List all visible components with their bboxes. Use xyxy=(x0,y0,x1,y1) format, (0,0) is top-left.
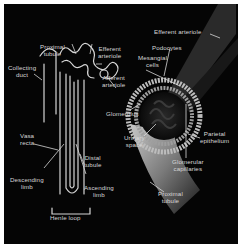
label-line: Afferent xyxy=(102,74,125,81)
label-line: arteriole xyxy=(98,52,121,59)
label-line: capillaries xyxy=(172,165,204,172)
label-ascending-limb: Ascending limb xyxy=(84,184,114,198)
label-urinary-space: Urinary space xyxy=(124,134,145,148)
label-proximal-tubule-bottom: Proximal tubule xyxy=(158,190,183,204)
label-line: limb xyxy=(10,183,44,190)
label-podocytes: Podocytes xyxy=(152,44,182,51)
label-line: Parietal xyxy=(200,130,229,137)
label-henle-loop: Henle loop xyxy=(50,214,81,221)
label-distal-tubule: Distal tubule xyxy=(84,154,101,168)
label-line: limb xyxy=(84,191,114,198)
label-mesangial-cells: Mesangial cells xyxy=(138,54,167,68)
label-line: Glomerular xyxy=(172,158,204,165)
label-afferent-arteriole: Afferent arteriole xyxy=(102,74,125,88)
nephron-illustration xyxy=(4,4,238,244)
label-line: Vasa xyxy=(20,132,34,139)
label-line: Ascending xyxy=(84,184,114,191)
label-line: Urinary xyxy=(124,134,145,141)
label-glomerulus: Glomerulus xyxy=(106,110,139,117)
label-line: cells xyxy=(138,61,167,68)
label-parietal-epithelium: Parietal epithelium xyxy=(200,130,229,144)
label-descending-limb: Descending limb xyxy=(10,176,44,190)
label-line: recta xyxy=(20,139,34,146)
label-line: Podocytes xyxy=(152,44,182,51)
renal-corpuscle xyxy=(128,4,238,214)
label-line: space xyxy=(124,141,145,148)
label-proximal-tubule-top: Proximal tubule xyxy=(40,43,65,57)
label-line: Collecting xyxy=(8,64,36,71)
label-collecting-duct: Collecting duct xyxy=(8,64,36,78)
label-line: tubule xyxy=(158,197,183,204)
label-vasa-recta: Vasa recta xyxy=(20,132,34,146)
label-line: Henle loop xyxy=(50,214,81,221)
label-line: Efferent arteriole xyxy=(154,28,201,35)
label-line: Efferent xyxy=(98,45,121,52)
label-line: tubule xyxy=(40,50,65,57)
label-efferent-arteriole-left: Efferent arteriole xyxy=(98,45,121,59)
leader-lines-left xyxy=(34,44,116,174)
label-glomerular-capillaries: Glomerular capillaries xyxy=(172,158,204,172)
label-line: tubule xyxy=(84,161,101,168)
label-line: Proximal xyxy=(40,43,65,50)
label-line: duct xyxy=(8,71,36,78)
label-line: Distal xyxy=(84,154,101,161)
label-line: Descending xyxy=(10,176,44,183)
label-line: arteriole xyxy=(102,81,125,88)
label-efferent-arteriole-right: Efferent arteriole xyxy=(154,28,201,35)
label-line: Proximal xyxy=(158,190,183,197)
diagram-panel: Proximal tubule Efferent arteriole Affer… xyxy=(4,4,238,244)
label-line: Glomerulus xyxy=(106,110,139,117)
label-line: epithelium xyxy=(200,137,229,144)
label-line: Mesangial xyxy=(138,54,167,61)
